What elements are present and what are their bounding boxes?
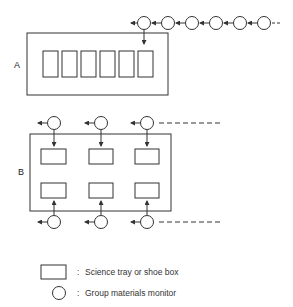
rectangle-icon xyxy=(41,265,66,279)
monitor-circle xyxy=(186,17,199,30)
arrangement-a-trays xyxy=(43,51,153,77)
tray xyxy=(43,51,58,77)
arrangement-a-table xyxy=(27,33,168,95)
monitor-circle xyxy=(258,17,271,30)
arrangement-a: A xyxy=(14,17,282,96)
tray xyxy=(100,51,115,77)
monitor-circle xyxy=(95,216,108,229)
arrangement-b-trays xyxy=(41,149,159,198)
legend-separator: : xyxy=(77,288,79,298)
monitor-circle xyxy=(210,17,223,30)
monitor-circle xyxy=(48,216,61,229)
tray xyxy=(135,149,159,164)
tray xyxy=(89,183,113,198)
arrangement-a-label: A xyxy=(14,60,20,70)
arrangement-b: B xyxy=(18,117,221,229)
legend-text: Group materials monitor xyxy=(85,288,176,298)
tray xyxy=(138,51,153,77)
monitor-circle xyxy=(234,17,247,30)
arrangement-b-bottom-monitors xyxy=(38,201,221,229)
monitor-circle xyxy=(95,117,108,130)
arrangement-b-label: B xyxy=(18,167,24,177)
legend-item-monitor: : Group materials monitor xyxy=(53,287,177,300)
tray xyxy=(81,51,96,77)
arrangement-b-top-monitors xyxy=(38,117,221,147)
legend-separator: : xyxy=(77,267,79,277)
monitor-circle xyxy=(48,117,61,130)
tray xyxy=(119,51,134,77)
tray xyxy=(89,149,113,164)
tray xyxy=(41,149,66,164)
tray xyxy=(135,183,159,198)
classroom-arrangement-diagram: A xyxy=(0,0,293,307)
tray xyxy=(62,51,77,77)
legend-text: Science tray or shoe box xyxy=(85,267,179,277)
circle-icon xyxy=(53,287,66,300)
monitor-circle xyxy=(162,17,175,30)
monitor-circle xyxy=(138,17,151,30)
arrangement-a-monitor-queue xyxy=(131,17,282,45)
monitor-circle xyxy=(141,216,154,229)
monitor-circle xyxy=(141,117,154,130)
legend: : Science tray or shoe box : Group mater… xyxy=(41,265,179,300)
tray xyxy=(41,183,66,198)
legend-item-tray: : Science tray or shoe box xyxy=(41,265,179,279)
